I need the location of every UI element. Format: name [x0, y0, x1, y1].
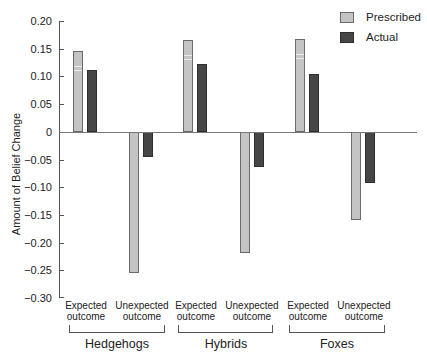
bar-prescribed [295, 39, 305, 132]
y-tick [59, 160, 64, 161]
group-label-hybrids: Hybrids [171, 337, 281, 351]
y-tick [59, 76, 64, 77]
y-tick [59, 104, 64, 105]
group-label-hedgehogs: Hedgehogs [62, 337, 172, 351]
category-label-foxes-expected: Expected outcome [278, 300, 338, 322]
y-tick [59, 297, 64, 298]
y-tick-label: −0.30 [8, 292, 52, 304]
y-tick [59, 21, 64, 22]
group-label-foxes: Foxes [282, 337, 392, 351]
y-tick-label: 0.15 [8, 43, 52, 55]
bar-prescribed [73, 51, 83, 132]
bar-actual [309, 74, 319, 132]
bar-actual [365, 132, 375, 183]
y-tick [59, 243, 64, 244]
bar-prescribed [351, 132, 361, 220]
legend-swatch-prescribed [340, 12, 354, 23]
y-tick [59, 215, 64, 216]
y-tick-label: −0.05 [8, 154, 52, 166]
bar-prescribed [129, 132, 139, 273]
y-tick [59, 270, 64, 271]
y-tick [59, 187, 64, 188]
y-tick-label: −0.20 [8, 237, 52, 249]
y-tick-label: 0.20 [8, 15, 52, 27]
y-tick-label: −0.25 [8, 264, 52, 276]
bar-actual [143, 132, 153, 157]
legend-label-prescribed: Prescribed [366, 11, 421, 23]
group-bracket-hybrids [178, 325, 273, 333]
legend-label-actual: Actual [366, 31, 398, 43]
y-tick-label: −0.15 [8, 209, 52, 221]
zero-line [59, 132, 417, 133]
y-tick-label: 0.10 [8, 70, 52, 82]
bar-prescribed [183, 40, 193, 132]
bar-actual [87, 70, 97, 132]
category-label-foxes-unexpected: Unexpected outcome [334, 300, 394, 322]
category-label-hedgehogs-unexpected: Unexpected outcome [112, 300, 172, 322]
y-axis-label: Amount of Belief Change [10, 104, 22, 244]
group-bracket-foxes [289, 325, 385, 333]
y-tick-label: 0 [8, 126, 52, 138]
category-label-hedgehogs-expected: Expected outcome [56, 300, 116, 322]
group-bracket-hedgehogs [69, 325, 165, 333]
category-label-hybrids-unexpected: Unexpected outcome [222, 300, 282, 322]
bar-actual [254, 132, 264, 167]
bar-prescribed [240, 132, 250, 253]
bar-actual [197, 64, 207, 132]
legend-swatch-actual [340, 32, 354, 43]
y-tick-label: 0.05 [8, 98, 52, 110]
y-tick-label: −0.10 [8, 181, 52, 193]
y-tick [59, 49, 64, 50]
category-label-hybrids-expected: Expected outcome [166, 300, 226, 322]
